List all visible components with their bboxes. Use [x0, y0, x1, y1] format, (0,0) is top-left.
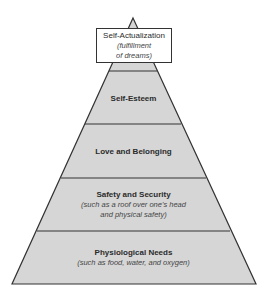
self-actualization-subtitle-2: of dreams)	[97, 51, 171, 61]
self-actualization-box: Self-Actualization (fulfillment of dream…	[96, 28, 172, 63]
level-physiological-title: Physiological Needs	[0, 248, 267, 258]
self-actualization-subtitle-1: (fulfillment	[97, 41, 171, 51]
level-safety-subtitle-1: (such as a roof over one's head	[0, 200, 267, 210]
level-safety-title: Safety and Security	[0, 190, 267, 200]
level-physiological-subtitle: (such as food, water, and oxygen)	[0, 258, 267, 268]
level-self-esteem-title: Self-Esteem	[0, 94, 267, 104]
level-safety-subtitle-2: and physical safety)	[0, 210, 267, 220]
self-actualization-title: Self-Actualization	[97, 31, 171, 41]
level-love-belonging-title: Love and Belonging	[0, 147, 267, 157]
